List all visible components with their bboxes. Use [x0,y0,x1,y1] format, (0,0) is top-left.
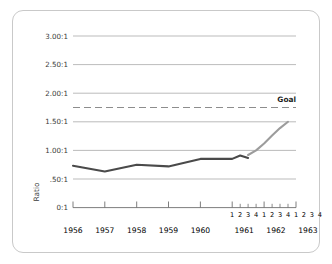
x-year-label-1956: 1956 [63,226,82,235]
x-quarter-label-1962-q1: 1 [262,211,266,219]
x-year-label-1957: 1957 [95,226,114,235]
x-axis-year-labels: 1956 1957 1958 1959 1960 1961 1962 1963 [63,226,317,235]
x-quarter-label-1962-q3: 3 [278,211,282,219]
x-year-label-1960: 1960 [191,226,210,235]
y-tick-label-3.00: 3.00:1 [45,32,68,41]
y-tick-label-0: 0:1 [57,203,68,212]
x-year-label-1959: 1959 [159,226,178,235]
x-year-label-1963: 1963 [298,226,317,235]
y-tick-label-2.00: 2.00:1 [45,89,68,98]
goal-annotation-label: Goal [277,95,296,104]
x-axis-quarter-labels: 1 2 3 4 1 2 3 4 1 2 3 4 [230,211,322,219]
x-quarter-label-1962-q2: 2 [270,211,274,219]
y-tick-label-1.00: 1.00:1 [45,146,68,155]
x-quarter-label-1962-q4: 4 [286,211,290,219]
x-quarter-label-1961-q4: 4 [254,211,258,219]
series-line-actual [73,156,248,172]
y-axis-tick-labels: 3.00:1 2.50:1 2.00:1 1.50:1 1.00:1 .50:1… [45,32,68,213]
x-year-label-1962: 1962 [266,226,285,235]
x-quarter-label-1963-q1: 1 [294,211,298,219]
x-quarter-label-1963-q4: 4 [318,211,322,219]
x-quarter-label-1961-q1: 1 [230,211,234,219]
y-axis-title: Ratio [32,182,41,201]
x-quarter-label-1961-q2: 2 [238,211,242,219]
x-axis-major-ticks [73,202,296,208]
x-year-label-1961: 1961 [235,226,254,235]
chart-figure: 3.00:1 2.50:1 2.00:1 1.50:1 1.00:1 .50:1… [0,0,332,264]
x-year-label-1958: 1958 [127,226,146,235]
x-quarter-label-1963-q2: 2 [302,211,306,219]
x-quarter-label-1963-q3: 3 [310,211,314,219]
chart-canvas: 3.00:1 2.50:1 2.00:1 1.50:1 1.00:1 .50:1… [0,0,332,264]
y-tick-label-2.50: 2.50:1 [45,60,68,69]
y-tick-label-0.50: .50:1 [50,175,68,184]
y-tick-label-1.50: 1.50:1 [45,117,68,126]
x-quarter-label-1961-q3: 3 [246,211,250,219]
